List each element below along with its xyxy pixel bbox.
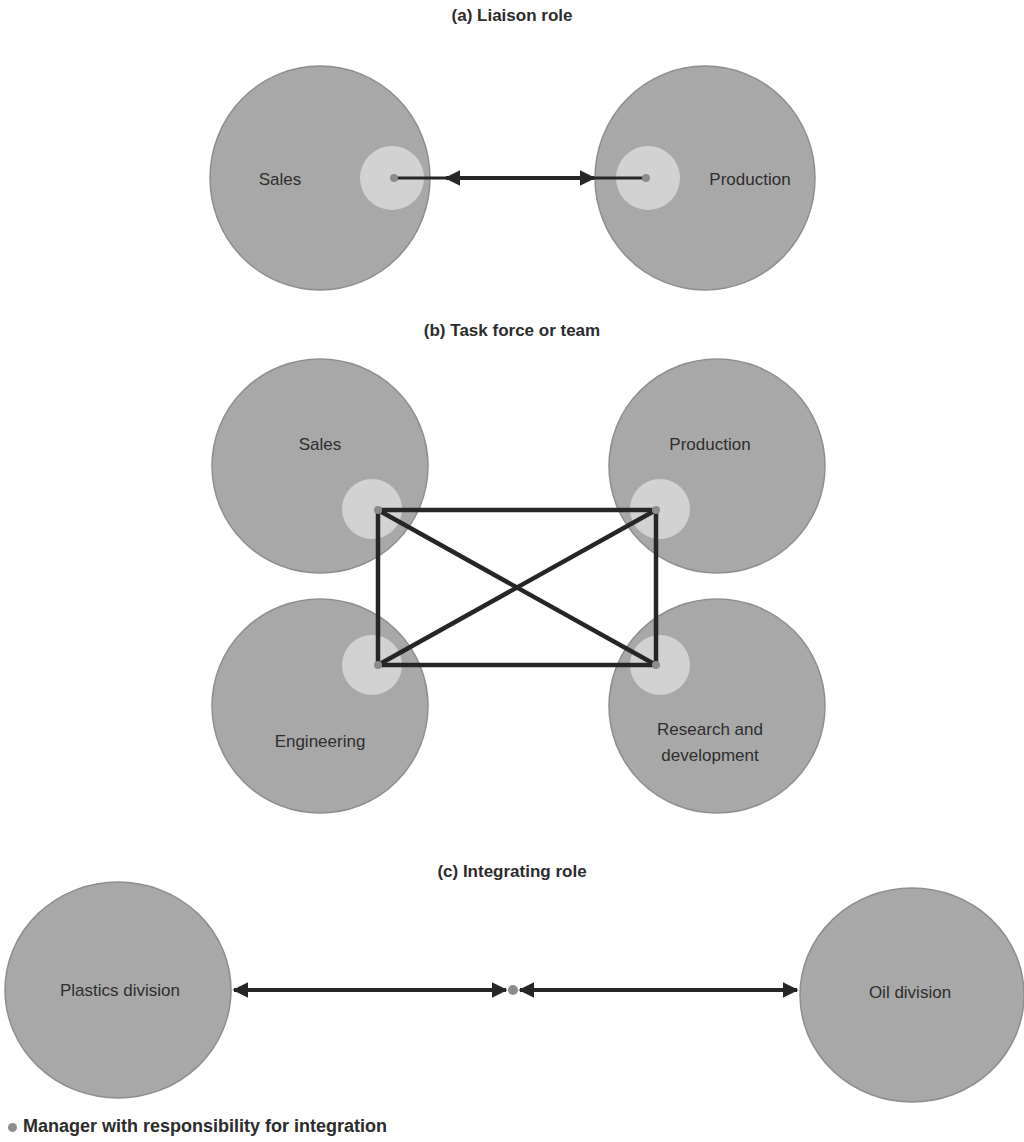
node-label-engineering: Engineering — [250, 732, 390, 752]
integrating-manager-dot-icon — [508, 985, 518, 995]
department-production-circle — [609, 359, 825, 573]
manager-dot-icon — [652, 506, 660, 514]
node-label-oil-division: Oil division — [840, 983, 980, 1003]
node-label-sales: Sales — [270, 435, 370, 455]
department-engineering-circle — [212, 599, 428, 813]
manager-dot-icon — [642, 174, 650, 182]
node-label-rnd-line2: development — [640, 746, 780, 766]
node-label-sales: Sales — [240, 170, 320, 190]
manager-dot-icon — [390, 174, 398, 182]
manager-dot-icon — [374, 661, 382, 669]
diagram-canvas — [0, 0, 1024, 1142]
department-rnd-circle — [609, 599, 825, 813]
node-label-production: Production — [650, 435, 770, 455]
manager-dot-icon — [374, 506, 382, 514]
node-label-plastics-division: Plastics division — [30, 981, 210, 1001]
department-sales-circle — [212, 359, 428, 573]
legend: Manager with responsibility for integrat… — [8, 1116, 387, 1137]
node-label-production: Production — [690, 170, 810, 190]
node-label-rnd-line1: Research and — [640, 720, 780, 740]
manager-dot-icon — [8, 1123, 17, 1132]
legend-label: Manager with responsibility for integrat… — [23, 1116, 387, 1136]
manager-dot-icon — [652, 661, 660, 669]
team-connections — [378, 510, 656, 665]
